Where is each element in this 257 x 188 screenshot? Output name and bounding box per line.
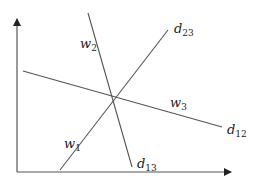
label-w3: w3 <box>170 96 187 112</box>
line-d12 <box>23 71 222 127</box>
label-w3-base: w <box>170 95 181 110</box>
diagram-canvas: w2 d23 w1 w3 d12 d13 <box>0 0 257 188</box>
diagram-svg <box>0 0 257 188</box>
label-w2: w2 <box>80 37 97 53</box>
label-w2-sub: 2 <box>91 43 97 53</box>
label-d23-sub: 23 <box>182 28 193 38</box>
label-d23: d23 <box>174 22 194 38</box>
label-d12-sub: 12 <box>235 129 246 139</box>
label-d12: d12 <box>227 123 247 139</box>
label-w1: w1 <box>64 137 81 153</box>
label-w3-sub: 3 <box>181 102 187 112</box>
label-d13: d13 <box>137 157 157 173</box>
label-d13-sub: 13 <box>145 163 156 173</box>
label-w1-sub: 1 <box>75 143 81 153</box>
label-w1-base: w <box>64 136 75 151</box>
label-w2-base: w <box>80 36 91 51</box>
